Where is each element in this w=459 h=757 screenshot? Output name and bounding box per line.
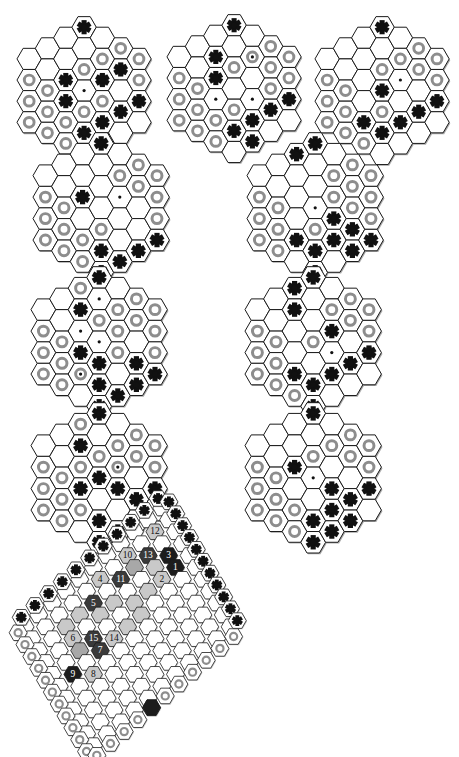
star-stone-icon [307, 535, 319, 549]
star-stone-icon [130, 356, 142, 370]
star-stone-icon [307, 270, 319, 284]
star-stone-icon [149, 367, 161, 381]
star-stone-icon [283, 92, 295, 106]
star-stone-icon [344, 492, 356, 506]
move-number-label: 1 [173, 562, 178, 572]
edge-ring-stone-icon [184, 664, 203, 680]
star-stone-icon [93, 406, 105, 420]
star-stone-icon [112, 481, 124, 495]
star-stone-icon [326, 524, 338, 538]
star-stone-icon [307, 378, 319, 392]
star-stone-icon [210, 50, 222, 64]
star-stone-icon [93, 378, 105, 392]
move-number-label: 11 [116, 574, 125, 584]
move-number-label: 2 [159, 574, 164, 584]
star-stone-icon [376, 20, 388, 34]
star-stone-icon [60, 73, 72, 87]
move-number-label: 4 [98, 574, 103, 584]
star-stone-icon [290, 233, 302, 247]
center-dot-icon [399, 78, 402, 81]
edge-ring-stone-icon [170, 676, 189, 692]
star-stone-icon [307, 514, 319, 528]
star-stone-icon [344, 356, 356, 370]
star-stone-icon [326, 367, 338, 381]
star-stone-icon [431, 94, 443, 108]
star-stone-icon [74, 345, 86, 359]
star-stone-icon [93, 471, 105, 485]
star-stone-icon [115, 62, 127, 76]
edge-ring-stone-icon [129, 712, 148, 728]
apex-dark-stone [143, 700, 161, 716]
move-number-label: 3 [166, 550, 171, 560]
star-stone-icon [344, 514, 356, 528]
star-stone-icon [328, 211, 340, 225]
star-stone-icon [210, 71, 222, 85]
star-stone-icon [309, 244, 321, 258]
move-number-label: 13 [143, 550, 153, 560]
edge-ring-stone-icon [197, 653, 216, 669]
center-dot-icon [251, 98, 254, 101]
star-stone-icon [115, 105, 127, 119]
center-dot-icon [79, 372, 82, 375]
star-stone-icon [326, 503, 338, 517]
star-stone-icon [309, 136, 321, 150]
star-stone-icon [151, 233, 163, 247]
center-dot-icon [251, 55, 254, 58]
star-stone-icon [328, 233, 340, 247]
edge-ring-stone-icon [225, 629, 244, 645]
star-stone-icon [265, 103, 277, 117]
move-number-label: 5 [91, 598, 96, 608]
move-number-label: 9 [71, 669, 76, 679]
star-stone-icon [74, 481, 86, 495]
star-stone-icon [130, 378, 142, 392]
edge-ring-stone-icon [115, 724, 134, 740]
center-dot-icon [214, 98, 217, 101]
star-stone-icon [132, 244, 144, 258]
center-dot-icon [118, 195, 121, 198]
star-stone-icon [307, 406, 319, 420]
star-stone-icon [346, 244, 358, 258]
star-stone-icon [326, 324, 338, 338]
star-stone-icon [133, 94, 145, 108]
move-number-label: 7 [98, 645, 103, 655]
hex-board-large-rhombus[interactable]: 123456789101112131415 [14, 497, 241, 757]
star-stone-icon [95, 244, 107, 258]
star-stone-icon [228, 18, 240, 32]
star-stone-icon [288, 367, 300, 381]
center-dot-icon [79, 329, 82, 332]
edge-ring-stone-icon [211, 641, 230, 657]
star-stone-icon [288, 460, 300, 474]
move-number-label: 8 [91, 669, 96, 679]
star-stone-icon [74, 302, 86, 316]
edge-ring-stone-icon [156, 688, 175, 704]
move-number-label: 12 [150, 526, 160, 536]
star-stone-icon [376, 84, 388, 98]
center-dot-icon [314, 206, 317, 209]
star-stone-icon [93, 356, 105, 370]
star-stone-icon [363, 481, 375, 495]
edge-ring-stone-icon [101, 736, 120, 752]
hex-board-9[interactable] [242, 398, 384, 558]
star-stone-icon [346, 222, 358, 236]
center-dot-icon [116, 465, 119, 468]
star-stone-icon [60, 94, 72, 108]
star-stone-icon [228, 124, 240, 138]
move-number-label: 15 [89, 633, 99, 643]
star-stone-icon [394, 115, 406, 129]
star-stone-icon [363, 345, 375, 359]
star-stone-icon [93, 270, 105, 284]
star-stone-icon [326, 481, 338, 495]
star-stone-icon [96, 73, 108, 87]
star-stone-icon [413, 105, 425, 119]
center-dot-icon [83, 89, 86, 92]
star-stone-icon [246, 113, 258, 127]
move-number-label: 14 [109, 633, 119, 643]
center-dot-icon [98, 297, 101, 300]
move-number-label: 6 [71, 633, 76, 643]
star-stone-icon [78, 20, 90, 34]
star-stone-icon [95, 136, 107, 150]
star-stone-icon [365, 233, 377, 247]
star-stone-icon [288, 281, 300, 295]
center-dot-icon [312, 476, 315, 479]
star-stone-icon [290, 147, 302, 161]
